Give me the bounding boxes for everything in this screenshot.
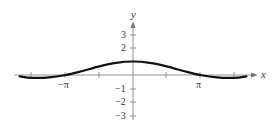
y-tick-label-2: 2 <box>121 42 126 53</box>
y-tick-label-neg1: −1 <box>115 83 126 94</box>
x-tick-label-neg-pi: −π <box>58 79 69 90</box>
y-tick-label-neg3: −3 <box>115 110 126 121</box>
x-axis-arrow-icon <box>251 73 258 78</box>
y-tick-label-neg2: −2 <box>115 96 126 107</box>
x-tick-label-pi: π <box>196 79 201 90</box>
y-tick-label-3: 3 <box>121 29 126 40</box>
function-graph: x y −π π 3 2 −1 −2 −3 <box>0 0 276 130</box>
y-axis-arrow-icon <box>131 21 136 28</box>
x-axis-label: x <box>260 68 266 80</box>
y-axis-label: y <box>130 8 136 20</box>
